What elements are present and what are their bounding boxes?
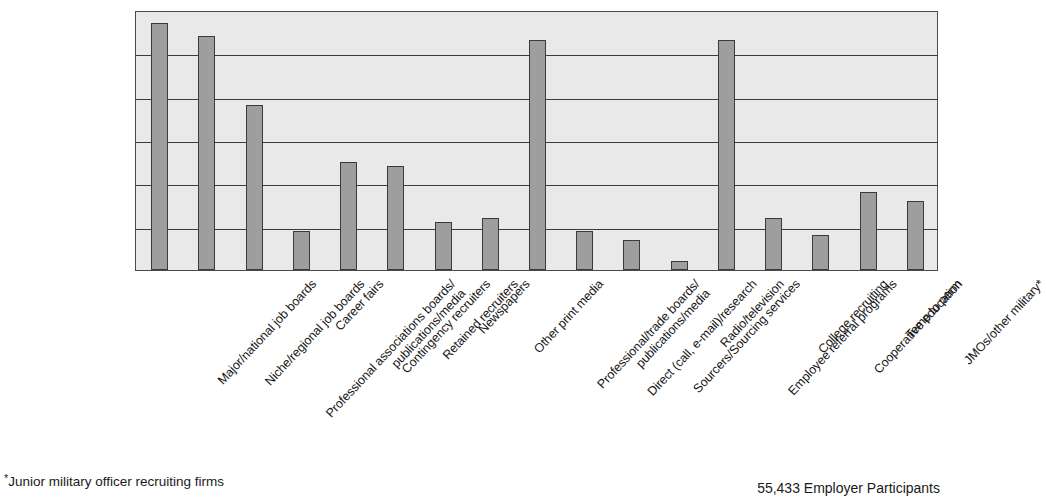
- plot-area: [135, 11, 938, 271]
- x-axis-labels: Major/national job boardsNiche/regional …: [0, 271, 946, 461]
- x-axis-tick-label: College recruiting: [815, 277, 890, 356]
- bar: [340, 162, 357, 270]
- bar: [293, 231, 310, 270]
- bars-group: [136, 12, 937, 270]
- bar: [671, 261, 688, 270]
- bar: [576, 231, 593, 270]
- x-axis-tick-line: Temp to perm: [903, 277, 965, 342]
- bar: [387, 166, 404, 270]
- bar: [529, 40, 546, 270]
- bar: [151, 23, 168, 270]
- bar: [907, 201, 924, 270]
- bar: [198, 36, 215, 270]
- x-axis-tick-line: Niche/regional job boards: [262, 277, 367, 388]
- x-axis-tick-line: Professional/trade boards/: [594, 277, 702, 391]
- bar: [765, 218, 782, 270]
- bar: [812, 235, 829, 270]
- bar: [246, 105, 263, 270]
- x-axis-tick-line: College recruiting: [815, 277, 890, 356]
- x-axis-tick-line: JMOs/other military*: [962, 277, 1046, 367]
- x-axis-tick-line: Major/national job boards: [214, 277, 318, 387]
- x-axis-tick-label: JMOs/other military*: [962, 277, 1046, 367]
- x-axis-tick-label: Temp to perm: [903, 277, 965, 342]
- participants-count-text: 55,433 Employer Participants: [757, 480, 940, 496]
- bar: [860, 192, 877, 270]
- x-axis-tick-line: Other print media: [531, 277, 606, 356]
- x-axis-tick-label: Other print media: [531, 277, 606, 356]
- x-axis-tick-label: Niche/regional job boards: [262, 277, 367, 388]
- footnote-right: 55,433 Employer Participants: [757, 480, 940, 496]
- bar: [482, 218, 499, 270]
- bar: [718, 40, 735, 270]
- x-axis-tick-label: Major/national job boards: [214, 277, 318, 387]
- footnote-left-text: Junior military officer recruiting firms: [8, 474, 224, 489]
- bar: [623, 240, 640, 270]
- footnote-left: *Junior military officer recruiting firm…: [4, 472, 224, 489]
- bar: [435, 222, 452, 270]
